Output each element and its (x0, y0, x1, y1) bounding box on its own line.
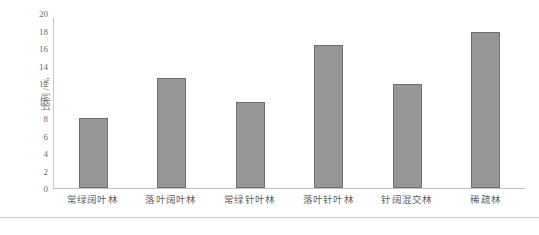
bar-slot (368, 18, 447, 188)
y-axis-tick-label: 2 (26, 167, 48, 176)
y-axis-tick-label: 20 (26, 10, 48, 19)
y-axis-tick-label: 16 (26, 45, 48, 54)
bar-group (54, 18, 525, 188)
x-axis-category-label: 针阔混交林 (368, 193, 447, 211)
x-axis-category-label: 稀疏林 (446, 193, 525, 211)
bar[interactable] (79, 118, 108, 188)
bar-chart-figure: 比例 / % 02468101214161820 常绿阔叶林落叶阔叶林常绿针叶林… (0, 0, 539, 235)
bar[interactable] (471, 32, 500, 188)
bar-slot (211, 18, 290, 188)
y-axis-tick-labels: 02468101214161820 (26, 14, 48, 189)
bar-slot (54, 18, 133, 188)
y-axis-tick-label: 8 (26, 115, 48, 124)
x-axis-category-label: 落叶针叶林 (289, 193, 368, 211)
y-axis-tick-label: 6 (26, 132, 48, 141)
y-axis-tick-label: 10 (26, 97, 48, 106)
x-axis-line (53, 188, 525, 189)
x-axis-category-label: 落叶阔叶林 (132, 193, 211, 211)
y-axis-tick-label: 18 (26, 27, 48, 36)
x-axis-category-labels: 常绿阔叶林落叶阔叶林常绿针叶林落叶针叶林针阔混交林稀疏林 (53, 193, 525, 211)
bottom-divider (0, 217, 539, 218)
y-axis-tick-label: 0 (26, 185, 48, 194)
bar-slot (133, 18, 212, 188)
bar[interactable] (393, 84, 422, 188)
bar-slot (447, 18, 526, 188)
x-axis-category-label: 常绿阔叶林 (53, 193, 132, 211)
plot-area (53, 18, 525, 188)
x-axis-category-label: 常绿针叶林 (210, 193, 289, 211)
y-axis-tick-label: 12 (26, 80, 48, 89)
y-axis-tick-label: 4 (26, 150, 48, 159)
bar[interactable] (314, 45, 343, 188)
y-axis-tick-label: 14 (26, 62, 48, 71)
bar-slot (290, 18, 369, 188)
bar[interactable] (236, 102, 265, 188)
bar[interactable] (157, 78, 186, 189)
